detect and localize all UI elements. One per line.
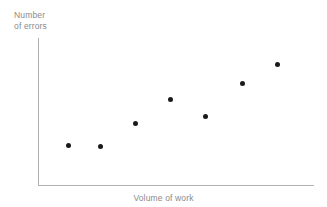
- data-point: [168, 97, 173, 102]
- scatter-plot-figure: Numberof errors Volume of work: [0, 0, 327, 207]
- data-point: [275, 62, 280, 67]
- plot-area: [38, 38, 313, 185]
- y-axis-label-line-2: of errors: [14, 21, 47, 32]
- data-point: [98, 144, 103, 149]
- x-axis-line: [38, 185, 314, 186]
- y-axis-label: Numberof errors: [14, 10, 47, 31]
- data-point: [66, 143, 71, 148]
- data-point: [133, 121, 138, 126]
- data-point: [240, 81, 245, 86]
- y-axis-label-line-1: Number: [14, 10, 45, 20]
- data-point: [203, 114, 208, 119]
- x-axis-label: Volume of work: [0, 193, 327, 204]
